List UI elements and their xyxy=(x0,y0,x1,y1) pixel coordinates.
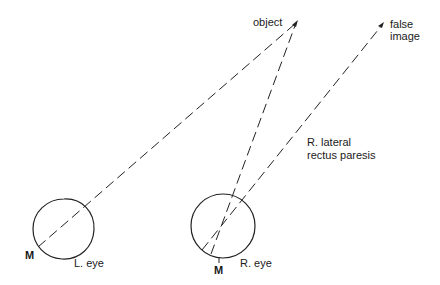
left-eye-label: L. eye xyxy=(74,257,104,269)
false-image-projection-line xyxy=(202,25,382,250)
right-macula-label: M xyxy=(214,264,223,276)
right-eye-label: R. eye xyxy=(240,257,272,269)
object-label: object xyxy=(253,16,282,28)
false-image-arrowhead xyxy=(378,22,384,28)
paresis-label-line1: R. lateral xyxy=(307,136,351,148)
right-eye-object-line xyxy=(211,23,296,254)
paresis-label-line2: rectus paresis xyxy=(307,149,375,161)
left-eye-sightline xyxy=(38,23,296,247)
right-eye-circle xyxy=(191,194,255,258)
false-image-label-line2: image xyxy=(390,30,420,42)
false-image-label-line1: false xyxy=(390,18,413,30)
diplopia-diagram xyxy=(0,0,440,285)
left-eye-circle xyxy=(33,199,94,259)
left-macula-label: M xyxy=(25,249,34,261)
